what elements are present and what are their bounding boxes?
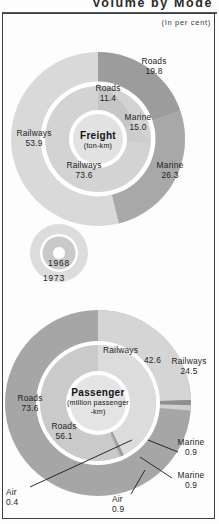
passenger-inner-marine-label: Marine 0.9: [166, 470, 216, 490]
legend-outer-year-label: 1973: [30, 273, 78, 283]
freight-inner-roads-label: Roads 11.4: [82, 83, 134, 103]
freight-outer-roads-label: Roads 19.8: [128, 56, 180, 76]
passenger-outer-air-label: Air 0.9: [112, 494, 148, 514]
freight-outer-marine-label: Marine 26.3: [144, 160, 196, 180]
freight-inner-railways-label: Railways 73.6: [56, 160, 112, 180]
freight-center-label: Freight (ton-km): [73, 131, 123, 150]
passenger-inner-air-label: Air 0.4: [6, 487, 40, 507]
passenger-inner-railways-label: Railways 42.6: [103, 345, 161, 365]
freight-inner-marine-label: Marine 15.0: [113, 112, 163, 132]
passenger-center-label: Passenger (million passenger -km): [53, 388, 143, 417]
passenger-outer-roads-label: Roads 73.6: [5, 393, 55, 413]
freight-outer-railways-label: Railways 53.9: [6, 128, 62, 148]
passenger-outer-railways-label: Railways 24.5: [163, 356, 215, 376]
legend-inner-year-label: 1968: [35, 258, 83, 268]
passenger-outer-marine-label: Marine 0.9: [166, 437, 216, 457]
passenger-inner-roads-label: Roads 56.1: [38, 421, 90, 441]
chart-page: Volume by Mode (In per cent): [0, 0, 219, 524]
